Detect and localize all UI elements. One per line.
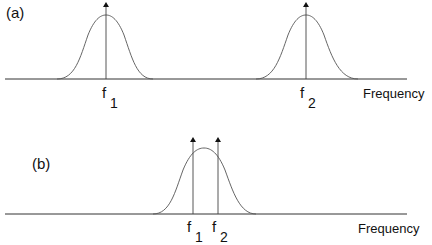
panel-b-f1-subscript: 1 (195, 229, 203, 245)
panel-b-f1-label: f (187, 218, 191, 235)
panel-b-f1-symbol: f (187, 218, 191, 235)
panel-a-spectrum-1 (57, 15, 153, 79)
panel-a-carrier-f2-arrowhead-icon (303, 2, 309, 7)
spectrum-diagram (0, 0, 432, 245)
panel-b-label: (b) (32, 155, 50, 172)
panel-a-carrier-f1-arrowhead-icon (103, 2, 109, 7)
panel-a-f2-subscript: 2 (308, 95, 316, 111)
panel-a-graph (5, 2, 407, 79)
panel-b-spectrum (153, 148, 256, 214)
panel-a-spectrum-2 (256, 15, 358, 79)
panel-a-f1-subscript: 1 (110, 95, 118, 111)
panel-a-f1-label: f (102, 84, 106, 101)
panel-b-graph (5, 137, 407, 214)
panel-a-label: (a) (6, 4, 24, 21)
panel-a-f2-symbol: f (300, 84, 304, 101)
panel-b-f2-subscript: 2 (220, 229, 228, 245)
panel-b-f2-symbol: f (212, 218, 216, 235)
panel-a-axis-label: Frequency (363, 86, 424, 101)
panel-a-f2-label: f (300, 84, 304, 101)
panel-b-axis-label: Frequency (358, 221, 419, 236)
panel-b-carrier-f2-arrowhead-icon (215, 137, 221, 142)
panel-b-carrier-f1-arrowhead-icon (190, 137, 196, 142)
panel-b-f2-label: f (212, 218, 216, 235)
panel-a-f1-symbol: f (102, 84, 106, 101)
